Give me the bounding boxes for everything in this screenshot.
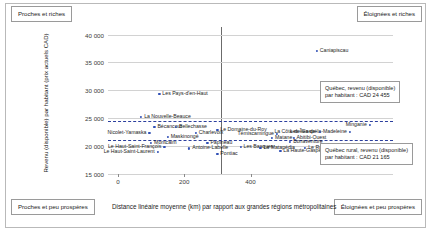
y-tick-label: 30 000 (85, 87, 104, 94)
quebec-rural-income-reference-line (108, 140, 393, 141)
scatter-point (279, 149, 281, 151)
callout-quebec-income: Québec, revenu (disponible) par habitant… (320, 81, 400, 103)
x-tick-label: 200 (179, 178, 189, 185)
scatter-point-label: Le Haut-Saint-Laurent (104, 149, 155, 154)
x-tick-mark (118, 174, 119, 177)
quadrant-label-top-left: Proches et riches (11, 6, 72, 22)
scatter-point-label: Pontiac (220, 151, 237, 156)
scatter-point (157, 151, 159, 153)
y-gridline (108, 35, 393, 36)
scatter-point (148, 132, 150, 134)
scatter-point (289, 141, 291, 143)
scatter-point (167, 136, 169, 138)
scatter-point (216, 153, 218, 155)
scatter-point (316, 50, 318, 52)
callout-rural-line2: par habitant : CAD 21 165 (325, 154, 408, 162)
scatter-point (163, 146, 165, 148)
y-tick-label: 15 000 (85, 171, 104, 178)
x-axis-title: Distance linéaire moyenne (km) par rappo… (112, 203, 336, 210)
y-tick-label: 20 000 (85, 143, 104, 150)
y-tick-label: 40 000 (85, 31, 104, 38)
y-gridline (108, 62, 393, 63)
quadrant-label-bottom-right: Éloignées et peu prospères (334, 199, 422, 215)
scatter-point-label: Nicolet-Yamaska (108, 131, 147, 136)
callout-quebec-line2: par habitant : CAD 24 455 (325, 92, 395, 100)
y-axis-title: Revenu (disponible) par habitant (prix a… (42, 33, 49, 172)
scatter-point-label: Les Pays-d'en-Haut (162, 91, 207, 96)
quadrant-label-top-right: Éloignées et riches (357, 6, 423, 22)
scatter-point (349, 131, 351, 133)
scatter-point (206, 142, 208, 144)
y-tick-label: 25 000 (85, 115, 104, 122)
chart-figure: Proches et riches Éloignées et riches Pr… (0, 0, 431, 231)
scatter-point-label: Caniapiscau (320, 49, 349, 54)
callout-rural-line1: Québec rural, revenu (disponible) (325, 147, 408, 155)
scatter-point-label: La Nouvelle-Beauce (144, 115, 191, 120)
scatter-point (153, 126, 155, 128)
y-tick-label: 35 000 (85, 59, 104, 66)
x-tick-mark (251, 174, 252, 177)
scatter-point-label: Bellechasse (179, 124, 207, 129)
x-tick-label: 400 (245, 178, 255, 185)
scatter-point (239, 146, 241, 148)
scatter-point (369, 124, 371, 126)
scatter-point (158, 93, 160, 95)
callout-quebec-rural-income: Québec rural, revenu (disponible) par ha… (320, 143, 413, 165)
quadrant-label-bottom-left: Proches et peu prospères (11, 199, 95, 215)
scatter-point-label: Minganie (346, 122, 367, 127)
scatter-point (271, 137, 273, 139)
callout-quebec-line1: Québec, revenu (disponible) (325, 85, 395, 93)
x-tick-label: 0 (116, 178, 119, 185)
scatter-point (188, 147, 190, 149)
x-tick-mark (184, 174, 185, 177)
scatter-point-label: Témiscamingue (237, 131, 274, 136)
